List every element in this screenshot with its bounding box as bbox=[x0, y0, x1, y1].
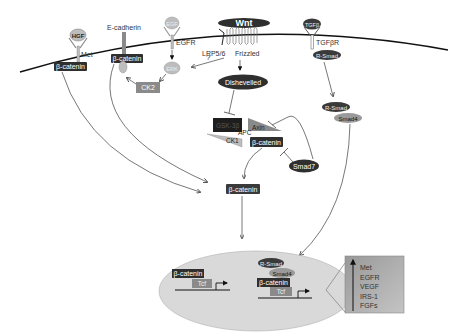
rsmad-membrane-label: R-Smad bbox=[316, 53, 338, 59]
egfr-label: EGFR bbox=[176, 39, 195, 46]
ecadherin-label: E-cadherin bbox=[107, 24, 141, 31]
egfr-stem bbox=[171, 35, 174, 49]
nuc-right-tcf-label: Tcf bbox=[277, 288, 286, 295]
smad7-label: Smad7 bbox=[293, 163, 315, 170]
tgfb-group: TGFβ TGFβR R-Smad R-Smad Smad4 bbox=[300, 19, 362, 256]
bcat-met-label: β-catenin bbox=[56, 63, 85, 71]
hgf-met-group: HGF Met β-catenin bbox=[54, 29, 93, 71]
ecadherin-stem bbox=[122, 32, 126, 54]
nuc-rsmad-label: R-Smad bbox=[260, 261, 282, 267]
bcat-ecad-label: β-catenin bbox=[113, 55, 142, 63]
nuc-left-bcat-label: β-catenin bbox=[174, 270, 203, 278]
erk-to-ck2-arrow bbox=[160, 74, 166, 81]
met-bcat-to-free-bcat-arrow bbox=[62, 72, 200, 192]
tgfbr-label: TGFβR bbox=[316, 39, 339, 47]
destruction-complex: GSK-3β APC Axin CK1 β-catenin bbox=[207, 118, 283, 147]
tgfb-label: TGFβ bbox=[305, 22, 319, 28]
target-gene-met: Met bbox=[360, 264, 372, 271]
rsmad-cyto-label: R-Smad bbox=[325, 105, 347, 111]
bcat-free-label: β-catenin bbox=[229, 186, 258, 194]
complex-to-free-bcat-arrow bbox=[244, 148, 262, 178]
target-gene-fgfs: FGFs bbox=[360, 302, 378, 309]
target-gene-vegf: VEGF bbox=[360, 283, 379, 290]
target-gene-irs1: IRS-1 bbox=[360, 293, 378, 300]
egf-label: EGF bbox=[166, 21, 178, 27]
met-receptor-stem bbox=[77, 46, 80, 62]
nuc-smad4-label: Smad4 bbox=[272, 271, 292, 277]
rsmad-to-cyto-arrow bbox=[324, 62, 333, 96]
wnt-frizzled-group: Wnt LRP5/6 Frizzled ? Dishevelled bbox=[192, 18, 270, 90]
egf-egfr-group: EGF EGFR ERK bbox=[160, 17, 195, 81]
target-gene-egfr: EGFR bbox=[360, 274, 379, 281]
smad7-inhibit-bcat-line bbox=[284, 152, 293, 162]
nuc-right-bcat-label: β-catenin bbox=[259, 279, 288, 287]
smad-to-nucleus-arrow bbox=[300, 124, 350, 255]
apc-label: APC bbox=[238, 129, 252, 136]
pathway-diagram: HGF Met β-catenin E-cadherin β-catenin C… bbox=[0, 0, 469, 336]
question-mark: ? bbox=[206, 53, 211, 62]
erk-label: ERK bbox=[166, 66, 178, 72]
nucleus bbox=[159, 251, 353, 331]
wnt-label: Wnt bbox=[236, 18, 253, 28]
ecadherin-group: E-cadherin β-catenin bbox=[107, 24, 143, 73]
bcat-complex-label: β-catenin bbox=[252, 139, 281, 147]
nuc-left-tcf-label: Tcf bbox=[198, 280, 207, 287]
hgf-label: HGF bbox=[72, 33, 85, 39]
dishevelled-inhibit-line bbox=[229, 90, 234, 113]
met-label: Met bbox=[81, 51, 93, 58]
axin-label: Axin bbox=[252, 124, 265, 131]
ck1-label: CK1 bbox=[226, 137, 239, 144]
ck2-label: CK2 bbox=[141, 84, 155, 91]
gsk3b-label: GSK-3β bbox=[216, 122, 240, 130]
ecad-bcat-to-free-bcat-arrow bbox=[110, 64, 207, 182]
ck2-to-bcat-arrow bbox=[127, 78, 136, 84]
ecad-phospho-oval bbox=[119, 61, 127, 73]
smad4-cyto-label: Smad4 bbox=[338, 116, 358, 122]
dishevelled-label: Dishevelled bbox=[225, 79, 261, 86]
tgfbr-stem bbox=[311, 35, 314, 49]
frizzled-label: Frizzled bbox=[235, 50, 260, 57]
